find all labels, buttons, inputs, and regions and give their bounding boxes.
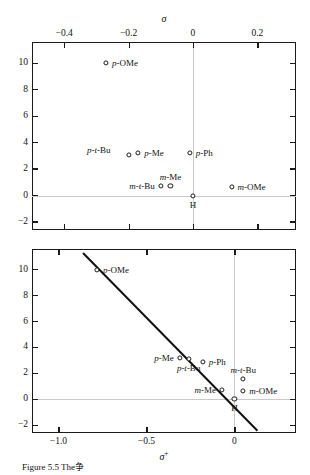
x-axis-tick-opposite [146, 249, 147, 255]
y-axis-tick [32, 373, 38, 374]
x-axis-title: σ+ [159, 449, 168, 462]
data-point-label: m-t-Bu [230, 365, 256, 374]
y-axis-tick-label: 8 [6, 291, 28, 301]
x-axis-tick-opposite [58, 249, 59, 255]
y-axis-tick-right [290, 321, 296, 322]
y-axis-tick-right [290, 373, 296, 374]
data-point-label: m-OMe [249, 386, 277, 395]
y-axis-tick-label: 2 [6, 369, 28, 379]
y-axis-tick [32, 399, 38, 400]
data-point[interactable] [200, 359, 205, 364]
data-point-label: p-Ph [209, 357, 226, 366]
data-point-label: m-Me [195, 386, 217, 395]
y-axis-tick-right [290, 425, 296, 426]
hammett-figure: −0.4−0.200.21086420−2σp-OMep-t-Bup-Mep-P… [0, 0, 310, 475]
data-point[interactable] [241, 376, 246, 381]
y-axis-tick-right [290, 295, 296, 296]
x-axis-tick [58, 427, 59, 433]
x-axis-tick [146, 427, 147, 433]
y-axis-tick [32, 425, 38, 426]
x-axis-tick [234, 427, 235, 433]
y-axis-tick [32, 269, 38, 270]
data-point[interactable] [177, 355, 182, 360]
data-point-label: p-Me [154, 353, 174, 362]
x-axis-tick-label: −1.0 [50, 437, 67, 447]
x-axis-tick-label: −0.5 [138, 437, 155, 447]
y-axis-tick [32, 321, 38, 322]
figure-caption: Figure 5.5 The争 [22, 462, 84, 473]
y-axis-tick-label: 4 [6, 343, 28, 353]
y-axis-tick-right [290, 347, 296, 348]
data-point-label: p-OMe [103, 265, 129, 274]
y-axis-tick-right [290, 269, 296, 270]
data-point[interactable] [232, 397, 237, 402]
y-axis-tick-label: 0 [6, 395, 28, 405]
y-axis-tick [32, 295, 38, 296]
data-point[interactable] [219, 388, 224, 393]
data-point[interactable] [241, 388, 246, 393]
y-axis-tick-right [290, 399, 296, 400]
y-axis-tick [32, 347, 38, 348]
x-axis-tick-label: 0 [232, 437, 237, 447]
x-axis-tick-opposite [234, 249, 235, 255]
y-axis-tick-label: 6 [6, 317, 28, 327]
data-point-label: p-t-Bu [177, 364, 201, 373]
y-axis-tick-label: 10 [6, 265, 28, 275]
sigma-plus-plot-overlay: −1.0−0.501086420−2σ+p-OMep-Mep-t-Bup-Phm… [0, 0, 310, 475]
y-axis-tick-label: −2 [6, 420, 28, 430]
data-point-label: H [231, 404, 238, 413]
